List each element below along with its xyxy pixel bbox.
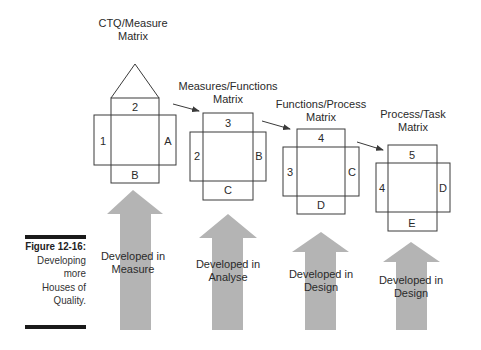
house-title: Matrix — [118, 30, 148, 42]
phase-label: Design — [394, 287, 428, 299]
phase-label: Developed in — [289, 268, 353, 280]
label-left: 2 — [194, 150, 200, 162]
label-right: B — [255, 150, 262, 162]
label-right: A — [164, 135, 172, 147]
house-title: Process/Task — [380, 108, 446, 120]
phase-label: Measure — [112, 263, 155, 275]
label-left: 3 — [287, 166, 293, 178]
label-bottom: B — [131, 169, 138, 181]
phase-label: Design — [304, 281, 338, 293]
connector-arrow-icon — [173, 104, 199, 111]
label-top: 5 — [409, 149, 415, 161]
phase-arrow-4 — [383, 242, 440, 330]
house-title: Matrix — [306, 111, 336, 123]
label-top: 3 — [225, 117, 231, 129]
house-title: CTQ/Measure — [98, 17, 167, 29]
house-title: Measures/Functions — [178, 80, 278, 92]
house-title: Matrix — [398, 121, 428, 133]
label-right: C — [348, 166, 356, 178]
house-title: Matrix — [213, 93, 243, 105]
phase-label: Developed in — [379, 274, 443, 286]
roof — [111, 64, 159, 98]
label-bottom: D — [317, 199, 325, 211]
label-bottom: C — [224, 184, 232, 196]
connector-arrow-icon — [262, 121, 290, 129]
house-title: Functions/Process — [276, 98, 367, 110]
up-arrow-icon — [383, 242, 440, 330]
phase-label: Analyse — [208, 271, 247, 283]
house-of-quality-diagram: CTQ/Measure Matrix 2 1 A B Developed in … — [0, 0, 481, 350]
label-right: D — [439, 182, 447, 194]
label-left: 4 — [379, 182, 385, 194]
label-top: 2 — [132, 101, 138, 113]
phase-label: Developed in — [196, 258, 260, 270]
label-left: 1 — [100, 135, 106, 147]
label-top: 4 — [318, 132, 324, 144]
phase-label: Developed in — [101, 250, 165, 262]
label-bottom: E — [408, 217, 415, 229]
connector-arrow-icon — [357, 142, 383, 150]
